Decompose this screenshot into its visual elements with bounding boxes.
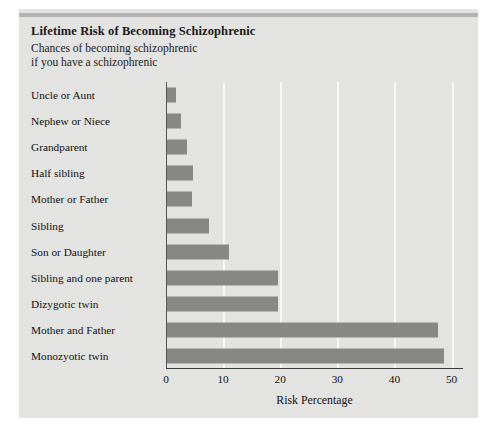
category-axis-labels: Uncle or AuntNephew or NieceGrandparentH… (31, 82, 166, 369)
x-tick-label: 20 (275, 373, 286, 385)
category-label: Sibling and one parent (31, 272, 162, 284)
x-tick-label: 40 (389, 373, 400, 385)
bar (167, 296, 278, 311)
bar (167, 322, 438, 337)
category-label: Sibling (31, 220, 162, 232)
chart-title: Lifetime Risk of Becoming Schizophrenic (31, 24, 256, 39)
category-label: Nephew or Niece (31, 115, 162, 127)
category-label: Monozyotic twin (31, 350, 162, 362)
category-label: Half sibling (31, 167, 162, 179)
x-axis-title: Risk Percentage (166, 393, 463, 408)
x-tick-label: 0 (163, 373, 169, 385)
bar (167, 140, 187, 155)
category-label: Uncle or Aunt (31, 89, 162, 101)
x-tick-label: 30 (332, 373, 343, 385)
plot-area-wrapper: Uncle or AuntNephew or NieceGrandparentH… (31, 82, 463, 377)
top-rule-divider (19, 13, 478, 17)
bar (167, 244, 229, 259)
chart-subtitle: Chances of becoming schizophrenic if you… (31, 41, 197, 69)
bar (167, 218, 209, 233)
bar (167, 192, 192, 207)
category-label: Son or Daughter (31, 246, 162, 258)
bar (167, 166, 193, 181)
gridline-50 (452, 82, 454, 368)
bar (167, 348, 444, 363)
category-label: Mother or Father (31, 193, 162, 205)
category-label: Mother and Father (31, 324, 162, 336)
chart-figure: Lifetime Risk of Becoming Schizophrenic … (0, 0, 498, 434)
bar (167, 114, 181, 129)
bar (167, 270, 278, 285)
category-label: Grandparent (31, 141, 162, 153)
x-tick-label: 50 (446, 373, 457, 385)
plot-area (166, 82, 463, 369)
x-tick-label: 10 (217, 373, 228, 385)
category-label: Dizygotic twin (31, 298, 162, 310)
bar (167, 88, 176, 103)
